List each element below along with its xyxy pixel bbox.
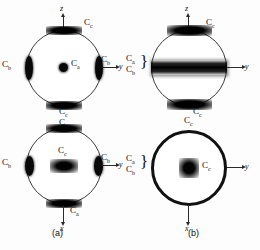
label-cb-group-b-bottom: Cb [126, 165, 135, 176]
label-group-brace-b-bottom: } [140, 153, 148, 170]
label-cc-top-a-top: Cc [84, 18, 93, 29]
z-axis-label-a-top: z [60, 5, 63, 13]
z-axis-arrow-a-top [61, 13, 65, 17]
panel-a-bottom: Ca y x Cb Cc Cb Ca [18, 118, 118, 218]
label-c-subscript: c [65, 112, 68, 118]
label-c-subscript: b [8, 163, 11, 169]
blob-center-dot-b-bottom [179, 158, 199, 178]
pole-figure-diagram: z y Cc Cb Ca Cb Cc Ca [0, 0, 260, 250]
z-axis-arrow-b-top [186, 13, 190, 17]
z-axis-label-b-top: z [185, 5, 188, 13]
label-c-subscript: c [64, 151, 67, 157]
label-c-subscript: c [199, 112, 202, 118]
label-c-subscript: a [77, 64, 80, 70]
label-cb-right-a-top: Cb [101, 55, 110, 66]
label-cc-center-a-bottom: Cc [58, 146, 67, 157]
label-cb-left-a-top: Cb [2, 60, 11, 71]
blob-equatorial-band-b-top [151, 60, 227, 75]
label-c-subscript: b [132, 70, 135, 76]
blob-bottom-cap-b-top [167, 99, 212, 110]
blob-center-dot-a-top [59, 63, 68, 72]
label-c-subscript: c [208, 166, 211, 172]
y-axis-label-a-top: y [119, 63, 123, 71]
y-axis-label-b-top: y [245, 63, 249, 71]
blob-top-cap-a-top [46, 26, 82, 35]
y-axis-label-a-bottom: y [119, 161, 123, 169]
panel-b-bottom: Cc y x Cc Ca Cb } [140, 118, 250, 218]
label-c-subscript: c [212, 23, 215, 29]
label-c-subscript: b [107, 158, 110, 164]
y-axis-label-b-bottom: y [245, 163, 249, 171]
label-c-subscript: c [90, 23, 93, 29]
label-cc-top-b-top: Cc [206, 18, 215, 29]
label-ca-center-a-top: Ca [71, 59, 80, 70]
blob-center-lens-a-bottom [50, 159, 78, 173]
label-c-subscript: c [190, 121, 193, 127]
label-c-subscript: a [76, 211, 79, 217]
label-cc-center-b-bottom: Cc [202, 161, 211, 172]
label-cb-group-b-top: Cb [126, 65, 135, 76]
label-cb-right-a-bottom: Cb [101, 153, 110, 164]
panel-a-top: z y Cc Cb Ca Cb Cc [18, 8, 118, 108]
label-cb-left-a-bottom: Cb [2, 158, 11, 169]
label-c-subscript: b [132, 170, 135, 176]
label-c-subscript: a [132, 59, 135, 65]
blob-left-lens-a-bottom [25, 156, 34, 176]
label-ca-bottom-a-bottom: Ca [70, 206, 79, 217]
label-c-subscript: a [132, 159, 135, 165]
label-group-brace-b-top: } [140, 53, 148, 70]
label-c-subscript: b [8, 65, 11, 71]
blob-left-lens-a-top [25, 56, 33, 80]
label-c-subscript: b [107, 60, 110, 66]
caption-b: (b) [188, 228, 199, 238]
blob-top-cap-a-bottom [46, 124, 82, 133]
caption-a: (a) [52, 228, 63, 238]
panel-b-top: z y Cc Cc Ca Cb } [140, 8, 250, 108]
label-cc-top-b-bottom: Cc [184, 116, 193, 127]
label-cc-bottom-b-top: Cc [193, 107, 202, 118]
